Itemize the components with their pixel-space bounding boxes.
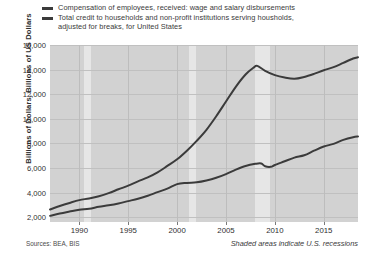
plot-area: 2,0004,0006,0008,00010,00012,00014,00016…	[50, 45, 358, 222]
x-tick-mark	[128, 222, 129, 225]
sources-note: Sources: BEA, BIS	[26, 240, 80, 247]
x-tick-mark	[177, 222, 178, 225]
y-tick-label: 12,000	[23, 90, 46, 99]
y-tick-label: 6,000	[27, 163, 46, 172]
x-tick-mark	[79, 222, 80, 225]
y-tick-label: 4,000	[27, 188, 46, 197]
legend-item: Compensation of employees, received: wag…	[42, 3, 362, 12]
x-tick-label: 2000	[168, 226, 185, 235]
x-tick-mark	[324, 222, 325, 225]
legend-label-compensation: Compensation of employees, received: wag…	[58, 3, 295, 12]
line-total-credit	[50, 57, 358, 209]
x-tick-label: 1995	[120, 226, 137, 235]
x-tick-mark	[226, 222, 227, 225]
legend-line-swatch-total-credit	[42, 17, 53, 20]
x-tick-label: 2015	[315, 226, 332, 235]
y-tick-label: 14,000	[23, 65, 46, 74]
x-tick-mark	[275, 222, 276, 225]
legend-line-swatch-compensation	[42, 7, 53, 10]
x-tick-label: 2005	[217, 226, 234, 235]
legend-item: Total credit to households and non-profi…	[42, 13, 362, 31]
y-tick-label: 10,000	[23, 114, 46, 123]
y-tick-label: 2,000	[27, 213, 46, 222]
chart-figure: Compensation of employees, received: wag…	[0, 0, 366, 260]
y-tick-label: 16,000	[23, 41, 46, 50]
x-tick-label: 2010	[266, 226, 283, 235]
series-lines	[50, 45, 358, 222]
line-compensation	[50, 136, 358, 215]
x-tick-label: 1990	[71, 226, 88, 235]
chart-legend: Compensation of employees, received: wag…	[42, 3, 362, 33]
y-tick-label: 8,000	[27, 139, 46, 148]
shaded-areas-note: Shaded areas indicate U.S. recessions	[231, 239, 358, 248]
legend-label-total-credit: Total credit to households and non-profi…	[58, 13, 294, 31]
